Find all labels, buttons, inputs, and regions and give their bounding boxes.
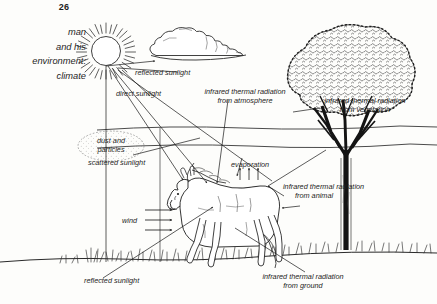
label-dust-and-particles: dust and particles bbox=[76, 136, 146, 154]
label-evaporation: evaporation bbox=[231, 160, 269, 169]
label-reflected-sunlight-top: reflected sunlight bbox=[135, 68, 190, 77]
label-infrared-atmosphere-line-1: infrared thermal radiation bbox=[180, 87, 310, 96]
label-infrared-animal-line-1: infrared thermal radiation bbox=[283, 182, 403, 191]
atmosphere-layer-lines bbox=[97, 126, 437, 148]
label-infrared-ground: infrared thermal radiation from ground bbox=[238, 272, 368, 290]
leader-tree-to-animal bbox=[268, 150, 326, 186]
leader-infrared-animal-2 bbox=[282, 206, 300, 208]
evaporation-arrows bbox=[240, 168, 258, 180]
label-infrared-vegetation-line-2: from vegetation bbox=[300, 105, 430, 114]
label-dust-and-particles-line-1: dust and bbox=[76, 136, 146, 145]
tree-icon bbox=[288, 25, 416, 250]
page-canvas: 26 man and his environment: climate bbox=[0, 0, 437, 304]
label-infrared-vegetation-line-1: infrared thermal radiation bbox=[300, 96, 430, 105]
label-dust-and-particles-line-2: particles bbox=[76, 145, 146, 154]
label-direct-sunlight: direct sunlight bbox=[116, 89, 161, 98]
label-infrared-vegetation: infrared thermal radiation from vegetati… bbox=[300, 96, 430, 114]
cloud-icon bbox=[150, 28, 246, 60]
climate-energy-balance-illustration bbox=[0, 0, 437, 304]
label-infrared-animal: infrared thermal radiation from animal bbox=[283, 182, 403, 200]
label-reflected-sunlight-bottom: reflected sunlight bbox=[84, 276, 139, 285]
label-infrared-ground-line-2: from ground bbox=[238, 281, 368, 290]
label-infrared-ground-line-1: infrared thermal radiation bbox=[238, 272, 368, 281]
wind-arrows bbox=[145, 210, 172, 230]
horse-figure bbox=[167, 163, 282, 268]
label-infrared-atmosphere: infrared thermal radiation from atmosphe… bbox=[180, 87, 310, 105]
label-wind: wind bbox=[122, 216, 137, 225]
leader-infrared-atmosphere bbox=[217, 100, 228, 183]
label-infrared-animal-line-2: from animal bbox=[283, 191, 403, 200]
label-scattered-sunlight: scattered sunlight bbox=[88, 158, 145, 167]
label-infrared-atmosphere-line-2: from atmosphere bbox=[180, 96, 310, 105]
